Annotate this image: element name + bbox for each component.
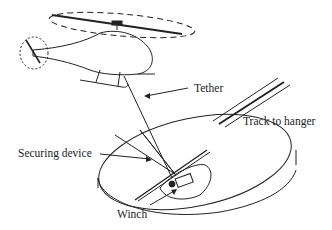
label-track-to-hanger: Track to hanger — [243, 116, 315, 128]
label-tether: Tether — [194, 83, 223, 95]
label-securing-device: Securing device — [18, 148, 92, 160]
winch-drum — [175, 174, 193, 188]
rotor-hub — [112, 21, 122, 25]
skid — [80, 80, 128, 87]
tail-rotor-blade — [26, 40, 40, 63]
diagram-canvas: Tether Track to hanger Securing device W… — [0, 0, 332, 230]
tether-line — [124, 76, 172, 178]
label-winch: Winch — [117, 209, 147, 221]
fuselage — [33, 31, 152, 75]
